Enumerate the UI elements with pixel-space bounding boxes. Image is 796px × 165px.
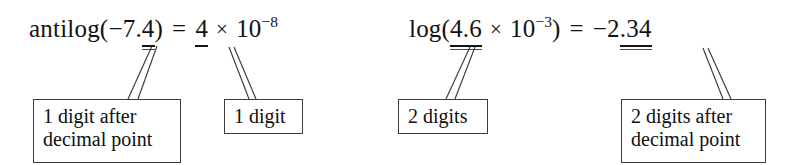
callout-2-digits-after-decimal: 2 digits after decimal point (621, 99, 766, 163)
log-power-exponent: −3 (535, 13, 552, 30)
log-equals-sign: = (560, 16, 592, 41)
antilog-power-base: 10 (236, 15, 261, 42)
antilog-argument-marked-digit: 4 (142, 16, 155, 41)
antilog-coefficient-marked: 4 (195, 16, 208, 41)
log-result-marked-decimals: .34 (620, 16, 652, 41)
antilog-argument-integer: 7. (123, 15, 142, 42)
callout-line: 2 digits after (631, 105, 756, 128)
log-argument-marked: 4.6 (450, 16, 482, 41)
antilog-argument-sign: − (108, 15, 122, 42)
callout-2-digits: 2 digits (398, 99, 488, 134)
callout-line: 2 digits (408, 105, 478, 128)
connector-2-right (234, 47, 256, 99)
callout-1-digit-after-decimal: 1 digit after decimal point (33, 99, 181, 163)
antilog-close-paren: ) (155, 15, 164, 42)
antilog-function-name: antilog (29, 15, 100, 42)
connector-3-left (446, 47, 470, 99)
connector-1-right (138, 46, 157, 99)
log-result-integer: 2 (607, 15, 620, 42)
connector-1-left (128, 46, 152, 99)
multiplication-icon: × (482, 19, 510, 40)
log-result-sign: − (593, 15, 607, 42)
callout-line: decimal point (631, 128, 756, 151)
callout-line: 1 digit (234, 105, 293, 128)
equation-antilog: antilog(−7.4)=4×10−8 (29, 14, 278, 41)
log-power-base: 10 (510, 15, 535, 42)
connector-3-right (455, 47, 475, 99)
connector-2-left (229, 47, 249, 99)
equation-log: log(4.6×10−3)=−2.34 (409, 14, 652, 41)
log-open-paren: ( (442, 15, 451, 42)
log-function-name: log (409, 15, 442, 42)
multiplication-icon: × (208, 19, 236, 40)
connector-4-right (708, 48, 731, 99)
connector-4-left (703, 48, 723, 99)
log-close-paren: ) (552, 15, 561, 42)
callout-line: decimal point (43, 128, 171, 151)
antilog-equals-sign: = (163, 16, 195, 41)
callout-line: 1 digit after (43, 105, 171, 128)
antilog-power-exponent: −8 (262, 13, 279, 30)
callout-1-digit: 1 digit (224, 99, 303, 134)
